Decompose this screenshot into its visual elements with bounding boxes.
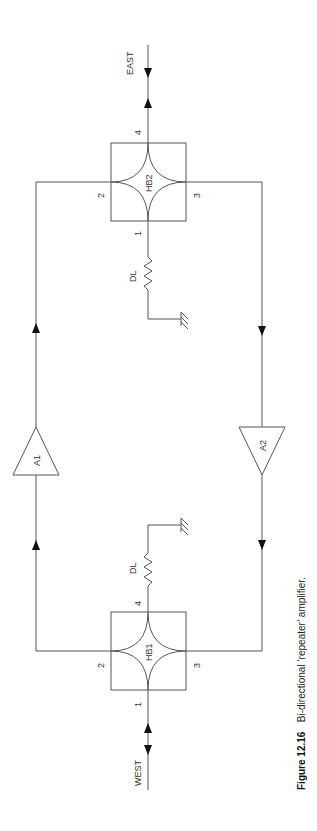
hb2-label: HB2 [144, 174, 154, 192]
figure-caption: Figure 12.16 Bi-directional ‘repeater’ a… [291, 577, 308, 790]
east-port: EAST [125, 45, 152, 143]
hybrid-hb1: HB1 4 1 2 3 [96, 601, 202, 707]
dl-hb1-label: DL [128, 562, 138, 574]
arrow-down-icon [144, 68, 152, 78]
hb2-port-2: 2 [96, 193, 106, 198]
dl-hb2-label: DL [128, 270, 138, 282]
load-dl-hb2: DL [128, 221, 188, 329]
hb1-label: HB1 [144, 643, 154, 661]
figure-number: Figure 12.16 [296, 731, 307, 790]
repeater-amplifier-diagram: EAST HB2 4 1 2 3 DL A1 [0, 0, 317, 831]
upper-path-a1: A1 [13, 182, 111, 651]
load-dl-hb1: DL [128, 518, 188, 612]
lower-path-a2: A2 [186, 182, 285, 651]
arrow-down-icon [258, 326, 266, 336]
arrow-up-icon [32, 540, 40, 550]
hb2-port-3: 3 [192, 193, 202, 198]
hb1-port-3: 3 [192, 663, 202, 668]
east-label: EAST [125, 51, 135, 75]
hb1-port-2: 2 [96, 663, 106, 668]
a2-label: A2 [258, 440, 268, 451]
arrow-down-icon [258, 540, 266, 550]
amplifier-a1 [13, 427, 59, 475]
hb1-port-1: 1 [133, 702, 143, 707]
hybrid-hb2: HB2 4 1 2 3 [96, 130, 202, 236]
hb2-port-4: 4 [133, 130, 143, 135]
arrow-up-icon [144, 723, 152, 733]
a1-label: A1 [32, 455, 42, 466]
svg-text:Figure 12.16 Bi-directio: Figure 12.16 Bi-directional ‘repeater’ a… [291, 577, 308, 790]
arrow-down-icon [144, 745, 152, 755]
hb1-port-4: 4 [133, 601, 143, 606]
arrow-up-icon [144, 98, 152, 108]
west-label: WEST [133, 759, 143, 786]
figure-caption-text: Bi-directional ‘repeater’ amplifier. [296, 577, 307, 722]
hb2-port-1: 1 [133, 231, 143, 236]
arrow-up-icon [32, 323, 40, 333]
